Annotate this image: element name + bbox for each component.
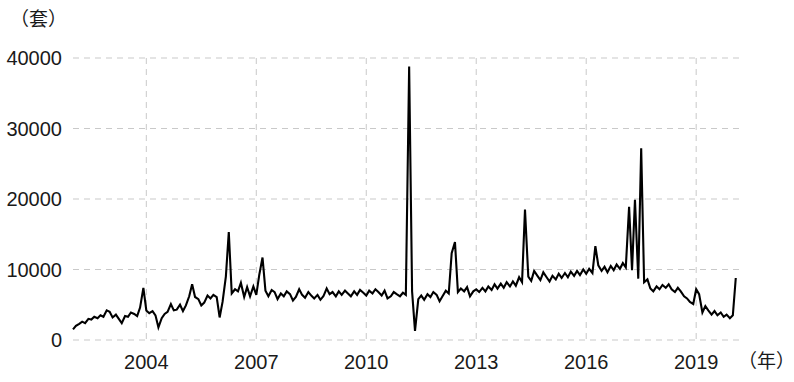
chart-container: （套） （年） 010000200003000040000 2004200720… [0,0,794,382]
chart-series-layer [0,0,794,382]
series-line-商品房成交套数 [73,66,736,330]
